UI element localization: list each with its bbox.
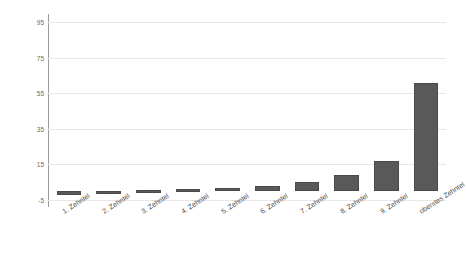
bar: [57, 191, 82, 195]
y-axis-tick-label: 35: [4, 125, 44, 132]
x-axis-labels: 1. Zehntel2. Zehntel3. Zehntel4. Zehntel…: [49, 205, 446, 260]
bar: [295, 182, 320, 191]
bar: [414, 83, 439, 192]
y-axis-tick-label: 15: [4, 161, 44, 168]
bar: [176, 189, 201, 192]
bar: [96, 191, 121, 194]
bar: [334, 175, 359, 191]
bar: [374, 161, 399, 191]
y-axis-tick-label: -5: [4, 197, 44, 204]
y-axis-labels: 9575553515-5: [0, 0, 44, 260]
bar: [255, 186, 280, 191]
bar: [136, 190, 161, 193]
y-axis-tick-label: 95: [4, 19, 44, 26]
y-axis-tick-label: 55: [4, 90, 44, 97]
bar: [215, 188, 240, 191]
y-axis-tick-label: 75: [4, 54, 44, 61]
